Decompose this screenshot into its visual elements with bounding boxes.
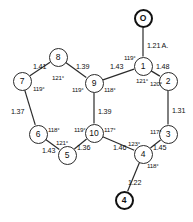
bond-angle-label: 123° [128, 140, 140, 147]
atom-label: 5 [65, 150, 70, 160]
atom-node-o: O [134, 9, 153, 28]
atom-label: 6 [36, 129, 41, 139]
bond-angle-label: 118° [48, 126, 60, 133]
atom-node-9: 9 [85, 74, 104, 93]
bond-angle-label: 117° [150, 128, 162, 135]
bond-length-label: 1.41 [33, 62, 46, 71]
atom-label: 7 [20, 76, 25, 86]
bond-length-label: 1.46 [113, 143, 126, 152]
bond-angle-label: 121° [56, 139, 68, 146]
bond-angle-label: 118° [147, 162, 159, 169]
molecular-structure-diagram [0, 0, 193, 222]
bond-length-label: 1.45 [153, 143, 166, 152]
bond-angle-label: 119° [124, 54, 136, 61]
atom-node-5: 5 [58, 146, 77, 165]
atom-node-6: 6 [29, 125, 48, 144]
bond-a6-a7 [25, 90, 36, 125]
atom-label: 8 [56, 52, 61, 62]
atom-node-8: 8 [49, 48, 68, 67]
atom-label: 1 [141, 61, 146, 71]
atom-label: 3 [166, 129, 171, 139]
bond-length-label: 1.21 A. [147, 41, 168, 50]
bond-angle-label: 117° [104, 126, 116, 133]
bond-angle-label: 119° [72, 86, 84, 93]
atom-node-4: 4 [115, 191, 134, 210]
atom-node-4: 4 [134, 145, 153, 164]
atom-node-1: 1 [134, 57, 153, 76]
bond-angle-label: 119° [74, 126, 86, 133]
atom-label: 2 [166, 76, 171, 86]
bond-length-label: 1.39 [98, 107, 111, 116]
bond-angle-label: 121° [136, 77, 148, 84]
bond-length-label: 1.37 [11, 107, 24, 116]
atom-node-10: 10 [85, 124, 104, 143]
atom-label: 4 [122, 195, 127, 205]
bond-angle-label: 121° [52, 74, 64, 81]
bond-length-label: 1.31 [172, 106, 185, 115]
atom-node-7: 7 [13, 72, 32, 91]
bond-angle-label: 118° [104, 86, 116, 93]
bond-angle-label: 120° [150, 80, 162, 87]
bond-length-label: 1.39 [76, 62, 89, 71]
atom-label: 10 [89, 128, 98, 138]
bond-length-label: 1.43 [110, 62, 123, 71]
atom-label: 4 [141, 149, 146, 159]
bond-length-label: 1.22 [128, 178, 141, 187]
bond-angle-label: 119° [33, 85, 45, 92]
bond-a1-a2 [151, 71, 160, 76]
atom-label: 9 [92, 78, 97, 88]
bond-length-label: 1.48 [156, 62, 169, 71]
bond-length-label: 1.36 [77, 143, 90, 152]
atom-label: O [140, 13, 147, 23]
bond-length-label: 1.43 [42, 146, 55, 155]
